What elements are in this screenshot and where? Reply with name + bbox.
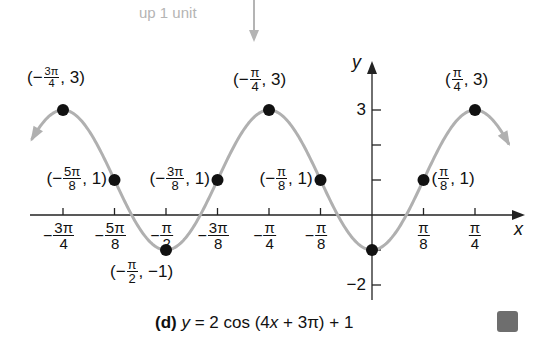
x-tick-label: π8: [416, 220, 430, 251]
caption-part: (d): [155, 313, 177, 332]
fraction: 3π4: [44, 66, 60, 89]
caption-equation: y = 2 cos (4x + 3π) + 1: [181, 313, 353, 332]
fraction: π4: [250, 66, 261, 93]
curve-arrowheads-icon: [31, 126, 510, 146]
x-tick-label: −π2: [150, 220, 174, 251]
y-tick-label: −2: [347, 275, 366, 295]
annotation-text: up 1 unit: [139, 4, 197, 21]
y-tick-label: 3: [357, 100, 366, 120]
x-tick-label: −π4: [253, 220, 277, 251]
point-label: (−3π4, 3): [27, 66, 85, 89]
x-tick-label: π4: [468, 220, 482, 251]
fraction: 3π8: [166, 165, 184, 192]
point-label: (−3π8, 1): [150, 165, 210, 192]
fraction: 5π8: [105, 220, 126, 251]
fraction: π2: [160, 220, 172, 251]
fraction: 3π8: [208, 220, 229, 251]
fraction: 5π8: [63, 165, 81, 192]
y-ticks: [372, 110, 381, 285]
point-label: (−π2, −1): [110, 258, 173, 285]
fraction: 3π4: [53, 220, 74, 251]
y-axis-label: y: [352, 52, 361, 73]
fraction: π8: [276, 165, 287, 192]
fraction: π8: [417, 220, 429, 251]
fraction: π2: [127, 258, 138, 285]
x-tick-label: −5π8: [94, 220, 126, 251]
point-label: (−π8, 1): [260, 165, 313, 192]
fraction: π4: [263, 220, 275, 251]
x-ticks: [63, 208, 475, 215]
point-label: (−5π8, 1): [47, 165, 107, 192]
fraction: π8: [315, 220, 327, 251]
fraction: π8: [438, 165, 449, 192]
end-of-example-marker-icon: [497, 311, 518, 332]
annotation-arrow-icon: [249, 0, 259, 42]
figure-caption: (d) y = 2 cos (4x + 3π) + 1: [155, 313, 353, 333]
x-tick-label: −π8: [305, 220, 329, 251]
fraction: π4: [469, 220, 481, 251]
point-label: (−π4, 3): [233, 66, 286, 93]
fraction: π4: [452, 66, 463, 93]
graph-figure: up 1 unit y x 3−2 −3π4−5π8−π2−3π8−π4−π8π…: [0, 0, 542, 359]
point-label: (π4, 3): [445, 66, 488, 93]
x-axis: [30, 210, 525, 220]
x-tick-label: −3π8: [197, 220, 229, 251]
point-label: (π8, 1): [432, 165, 475, 192]
x-axis-label: x: [514, 219, 523, 240]
x-tick-label: −3π4: [43, 220, 75, 251]
